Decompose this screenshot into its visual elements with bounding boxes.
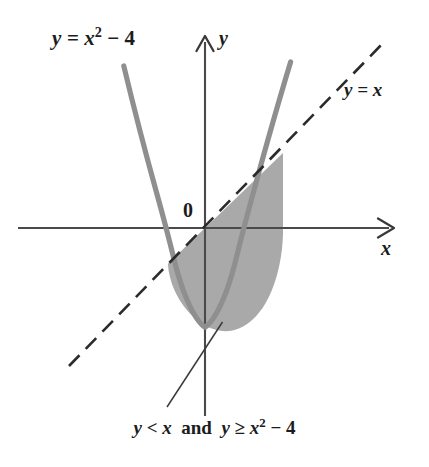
parabola-label-eq: = xyxy=(67,26,79,50)
x-axis-label: x xyxy=(381,238,391,258)
origin-label: 0 xyxy=(183,200,193,220)
parabola-label-lhs: y xyxy=(52,26,61,50)
caption-right-lhs: y xyxy=(221,417,229,438)
caption-left-lhs: y xyxy=(133,417,141,438)
caption-right-base: x xyxy=(250,417,260,438)
coordinate-plot-svg xyxy=(0,0,429,467)
caption-leader-line xyxy=(167,322,223,407)
shaded-solution-region xyxy=(168,153,283,331)
caption-conjunction: and xyxy=(181,417,212,438)
parabola-label-base: x xyxy=(84,26,95,50)
caption-left-op: < xyxy=(147,417,158,438)
parabola-label-exp: 2 xyxy=(95,24,102,40)
inequality-region-figure: y = x2 − 4 y = x y x 0 y < x and y ≥ x2 … xyxy=(0,0,429,467)
caption-left-rhs: x xyxy=(162,417,172,438)
parabola-label-tail: − 4 xyxy=(107,26,135,50)
line-equation-label: y = x xyxy=(344,80,382,99)
caption-right-exp: 2 xyxy=(259,415,265,430)
region-caption: y < x and y ≥ x2 − 4 xyxy=(0,418,429,437)
caption-right-tail: − 4 xyxy=(270,417,295,438)
caption-right-op: ≥ xyxy=(235,417,245,438)
parabola-equation-label: y = x2 − 4 xyxy=(52,28,135,49)
y-axis-label: y xyxy=(219,28,228,48)
